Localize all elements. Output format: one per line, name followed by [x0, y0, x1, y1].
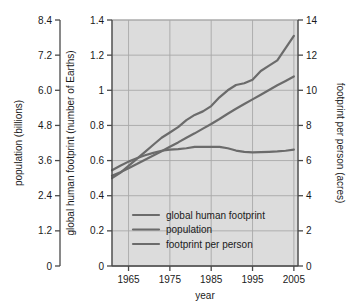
chart-container: 01.22.43.64.86.07.28.400.20.40.60.811.21… [0, 0, 350, 305]
population-axis-tick-label: 1.2 [38, 225, 52, 236]
per-person-axis-tick-label: 8 [306, 120, 312, 131]
population-axis-tick-label: 2.4 [38, 190, 52, 201]
legend-label-2: footprint per person [166, 239, 253, 250]
legend-label-0: global human footprint [166, 210, 265, 221]
footprint-axis-tick-label: 0.8 [90, 120, 104, 131]
population-axis-title: population (billions) [13, 100, 24, 186]
population-axis-tick-label: 0 [46, 261, 52, 272]
population-axis-tick-label: 7.2 [38, 50, 52, 61]
x-axis-tick-label: 1975 [159, 274, 182, 285]
footprint-axis-tick-label: 0.4 [90, 190, 104, 201]
chart-svg: 01.22.43.64.86.07.28.400.20.40.60.811.21… [0, 0, 350, 305]
per-person-axis-tick-label: 6 [306, 155, 312, 166]
per-person-axis-tick-label: 14 [306, 15, 318, 26]
population-axis-tick-label: 8.4 [38, 15, 52, 26]
per-person-axis-tick-label: 12 [306, 50, 318, 61]
footprint-axis-tick-label: 1.2 [90, 50, 104, 61]
x-axis-tick-label: 1965 [117, 274, 140, 285]
footprint-axis-tick-label: 0.2 [90, 225, 104, 236]
population-axis-tick-label: 6.0 [38, 85, 52, 96]
footprint-axis-tick-label: 1.4 [90, 15, 104, 26]
x-axis-tick-label: 1985 [200, 274, 223, 285]
population-axis-tick-label: 4.8 [38, 120, 52, 131]
legend-label-1: population [166, 224, 212, 235]
x-axis-tick-label: 1995 [241, 274, 264, 285]
per-person-axis-tick-label: 2 [306, 225, 312, 236]
footprint-axis-tick-label: 0 [98, 261, 104, 272]
per-person-axis-tick-label: 10 [306, 85, 318, 96]
per-person-axis-tick-label: 0 [306, 261, 312, 272]
population-axis-tick-label: 3.6 [38, 155, 52, 166]
footprint-axis-title: global human footprint (number of Earths… [65, 50, 76, 235]
per-person-axis-title: footprint per person (acres) [335, 83, 346, 204]
per-person-axis-tick-label: 4 [306, 190, 312, 201]
footprint-axis-tick-label: 0.6 [90, 155, 104, 166]
footprint-axis-tick-label: 1 [98, 85, 104, 96]
x-axis-title: year [195, 290, 215, 301]
x-axis-tick-label: 2005 [283, 274, 306, 285]
